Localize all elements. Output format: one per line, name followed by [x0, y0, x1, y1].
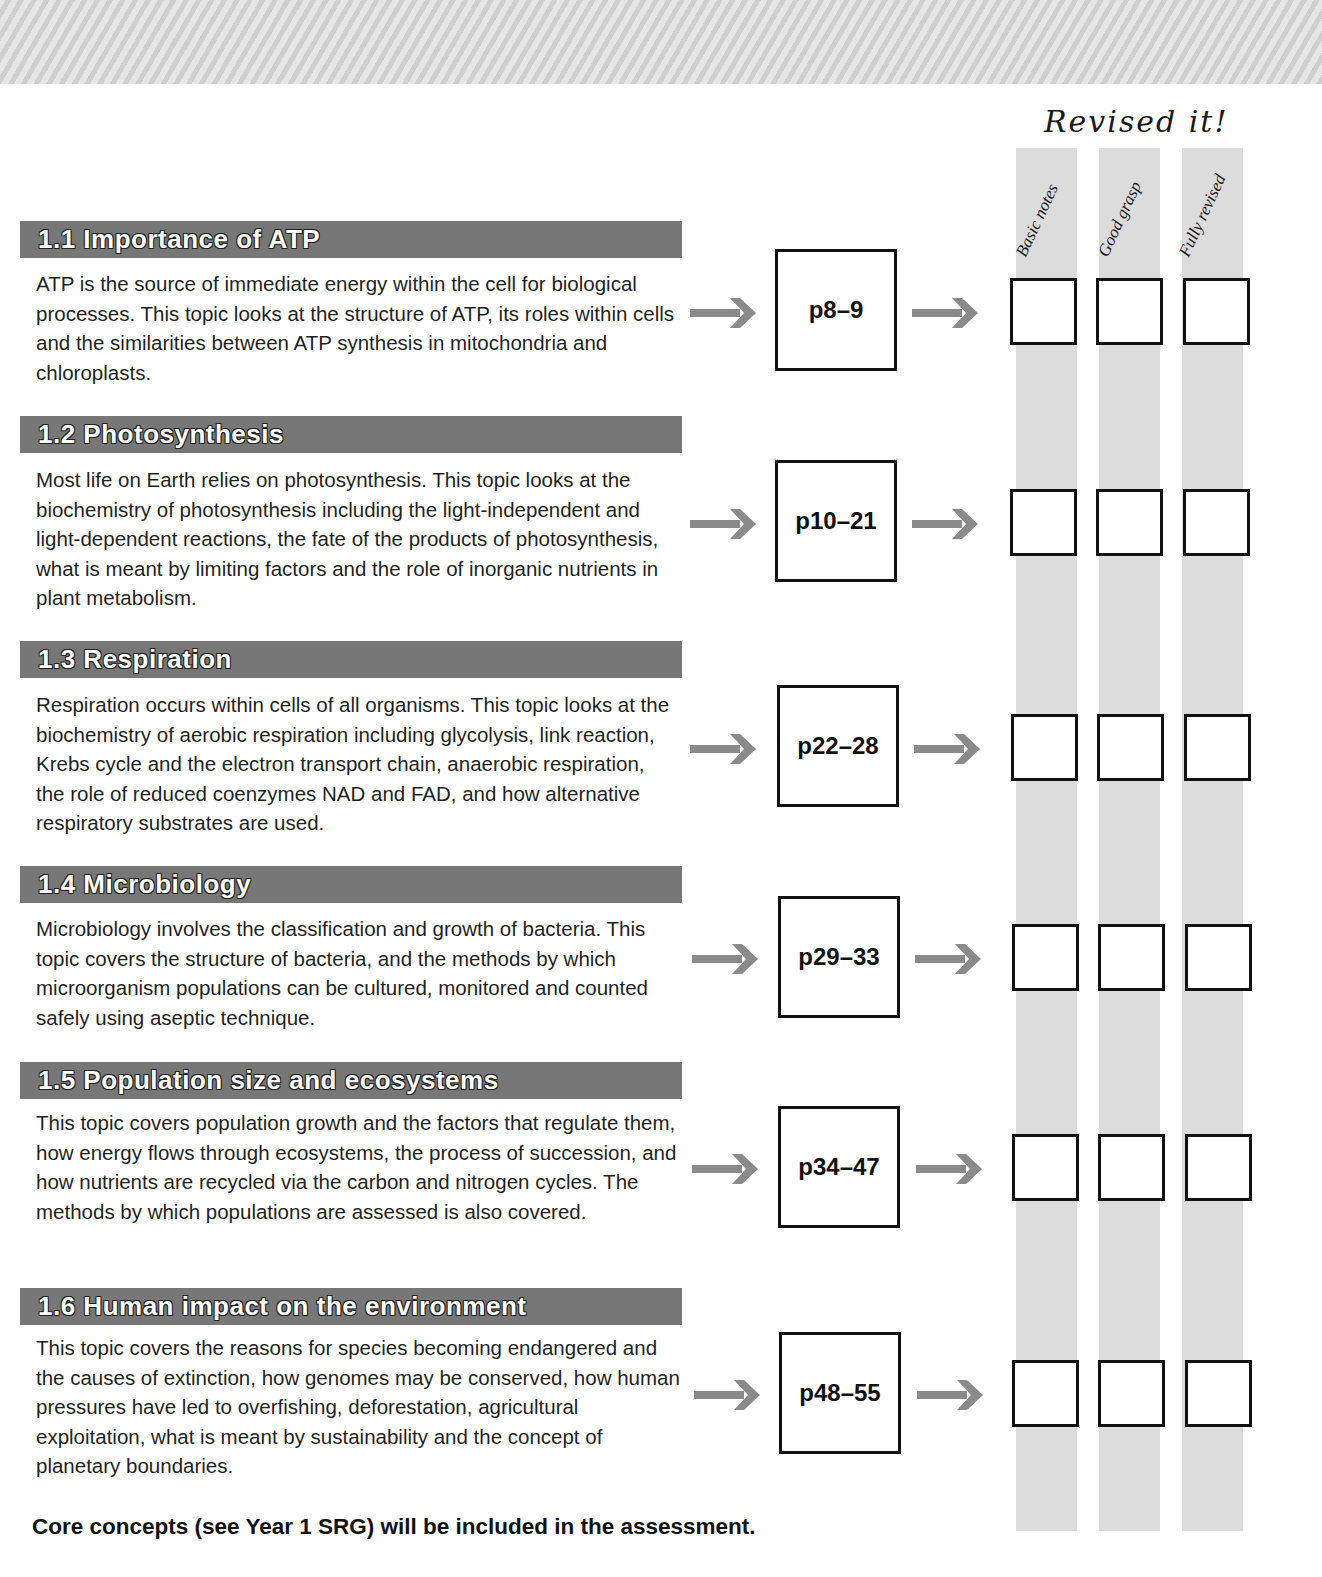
column-stripe-fully-revised	[1182, 148, 1243, 1531]
checkbox-good-grasp[interactable]	[1096, 489, 1163, 556]
section-description: Most life on Earth relies on photosynthe…	[36, 465, 676, 613]
checkbox-fully-revised[interactable]	[1185, 1134, 1252, 1201]
arrow-right-icon	[912, 298, 978, 328]
section-heading: 1.2 Photosynthesis	[20, 416, 682, 453]
checkbox-basic-notes[interactable]	[1010, 489, 1077, 556]
checkbox-basic-notes[interactable]	[1012, 924, 1079, 991]
checkbox-good-grasp[interactable]	[1098, 1134, 1165, 1201]
arrow-right-icon	[690, 734, 756, 764]
page-reference-box: p34–47	[778, 1106, 900, 1228]
column-stripe-basic-notes	[1016, 148, 1077, 1531]
page-reference-box: p8–9	[775, 249, 897, 371]
arrow-right-icon	[690, 298, 756, 328]
checkbox-basic-notes[interactable]	[1012, 1360, 1079, 1427]
arrow-right-icon	[690, 509, 756, 539]
checkbox-fully-revised[interactable]	[1183, 278, 1250, 345]
section-heading: 1.6 Human impact on the environment	[20, 1288, 682, 1325]
page-reference-box: p22–28	[777, 685, 899, 807]
section-description: This topic covers the reasons for specie…	[36, 1333, 686, 1481]
arrow-right-icon	[916, 1154, 982, 1184]
section-description: Respiration occurs within cells of all o…	[36, 690, 676, 838]
arrow-right-icon	[917, 1380, 983, 1410]
checkbox-basic-notes[interactable]	[1012, 1134, 1079, 1201]
section-description: This topic covers population growth and …	[36, 1108, 686, 1226]
checkbox-fully-revised[interactable]	[1185, 1360, 1252, 1427]
column-stripe-good-grasp	[1099, 148, 1160, 1531]
page-reference-box: p10–21	[775, 460, 897, 582]
checkbox-fully-revised[interactable]	[1184, 714, 1251, 781]
section-heading: 1.1 Importance of ATP	[20, 221, 682, 258]
decorative-header-band	[0, 0, 1322, 84]
checkbox-fully-revised[interactable]	[1183, 489, 1250, 556]
checkbox-good-grasp[interactable]	[1098, 1360, 1165, 1427]
checkbox-basic-notes[interactable]	[1010, 278, 1077, 345]
arrow-right-icon	[694, 1380, 760, 1410]
checkbox-basic-notes[interactable]	[1011, 714, 1078, 781]
assessment-note: Core concepts (see Year 1 SRG) will be i…	[32, 1514, 756, 1540]
arrow-right-icon	[915, 944, 981, 974]
checkbox-good-grasp[interactable]	[1096, 278, 1163, 345]
section-description: ATP is the source of immediate energy wi…	[36, 269, 676, 387]
checkbox-fully-revised[interactable]	[1185, 924, 1252, 991]
section-heading: 1.3 Respiration	[20, 641, 682, 678]
arrow-right-icon	[692, 944, 758, 974]
section-description: Microbiology involves the classification…	[36, 914, 676, 1032]
page-reference-box: p48–55	[779, 1332, 901, 1454]
checkbox-good-grasp[interactable]	[1097, 714, 1164, 781]
section-heading: 1.5 Population size and ecosystems	[20, 1062, 682, 1099]
arrow-right-icon	[914, 734, 980, 764]
arrow-right-icon	[692, 1154, 758, 1184]
arrow-right-icon	[912, 509, 978, 539]
checkbox-good-grasp[interactable]	[1098, 924, 1165, 991]
section-heading: 1.4 Microbiology	[20, 866, 682, 903]
page-reference-box: p29–33	[778, 896, 900, 1018]
revised-it-title: Revised it!	[1044, 104, 1228, 139]
